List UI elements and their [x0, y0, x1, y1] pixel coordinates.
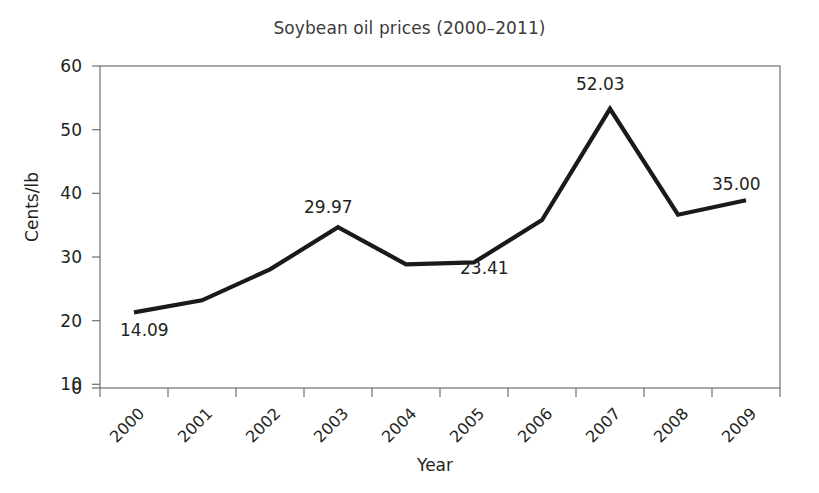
- x-axis-ticks: [100, 388, 780, 397]
- y-tick-label-20: 20: [42, 311, 82, 331]
- point-label-2005: 23.41: [460, 258, 509, 278]
- y-axis-label: Cents/lb: [22, 147, 42, 267]
- y-tick-label-0: 0: [42, 378, 82, 398]
- y-tick-label-50: 50: [42, 120, 82, 140]
- y-tick-label-30: 30: [42, 247, 82, 267]
- y-tick-label-60: 60: [42, 56, 82, 76]
- chart-figure: Soybean oil prices (2000–2011): [0, 0, 819, 493]
- y-tick-label-40: 40: [42, 183, 82, 203]
- x-axis-label: Year: [335, 455, 535, 475]
- plot-frame: [100, 66, 780, 388]
- point-label-2007: 52.03: [576, 74, 625, 94]
- point-label-2009: 35.00: [712, 174, 761, 194]
- point-label-2003: 29.97: [304, 197, 353, 217]
- point-label-2000: 14.09: [120, 320, 169, 340]
- data-series-line: [134, 109, 746, 313]
- y-axis-ticks: [92, 66, 100, 388]
